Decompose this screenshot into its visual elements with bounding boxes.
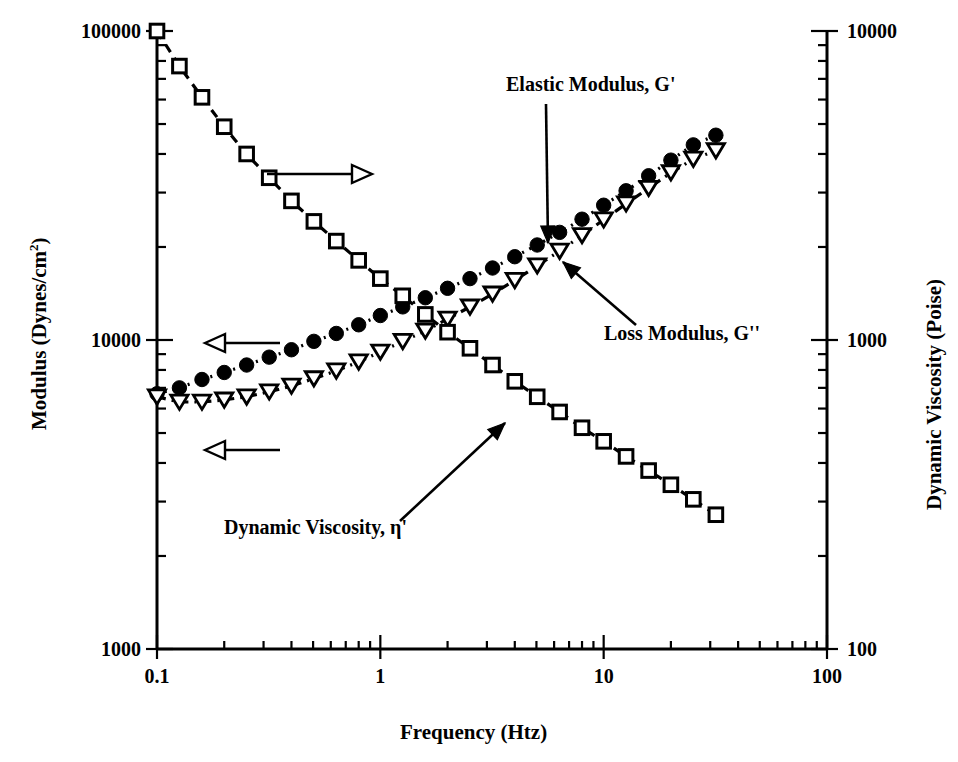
marker-open-triangle-down [417, 324, 434, 338]
annotation-dynamic-viscosity: Dynamic Viscosity, η' [224, 516, 407, 539]
y-axis-left-title: Modulus (Dynes/cm2) [26, 237, 51, 430]
arrow-to-loss-modulus [563, 262, 636, 325]
marker-filled-circle [195, 372, 209, 386]
marker-filled-circle [575, 212, 589, 226]
x-axis-title: Frequency (Htz) [400, 720, 547, 744]
arrow-shaft [546, 104, 548, 243]
marker-filled-circle [485, 261, 499, 275]
arrow-to-elastic-modulus [541, 104, 555, 243]
marker-filled-circle [239, 358, 253, 372]
marker-open-square [486, 358, 500, 372]
series-1 [150, 128, 723, 401]
x-tick-label: 100 [812, 665, 842, 687]
y-right-tick-label: 10000 [847, 20, 897, 42]
marker-filled-circle [307, 334, 321, 348]
marker-open-square [575, 421, 589, 435]
marker-filled-circle [217, 365, 231, 379]
marker-filled-circle [351, 318, 365, 332]
marker-open-square [352, 254, 366, 268]
marker-open-triangle-down [372, 345, 389, 359]
marker-open-square [173, 59, 187, 73]
arrow-to-dynamic-viscosity [400, 423, 505, 521]
marker-open-triangle-down [662, 166, 679, 180]
data-series-layer [148, 24, 724, 521]
tick-labels-group: 0.1110100100010000100000100100010000 [81, 20, 897, 687]
marker-open-square [307, 215, 321, 229]
arrow-head-hollow [205, 334, 225, 352]
marker-open-square [329, 234, 343, 248]
y-axis-left-title-main: Modulus (Dynes/cm [27, 250, 51, 430]
marker-filled-circle [262, 350, 276, 364]
y-left-tick-label: 100000 [81, 20, 141, 42]
marker-open-square [530, 390, 544, 404]
marker-open-square [687, 493, 701, 507]
x-tick-label: 0.1 [145, 665, 170, 687]
marker-filled-circle [596, 198, 610, 212]
marker-filled-circle [284, 343, 298, 357]
figure-container: 0.1110100100010000100000100100010000 Ela… [0, 0, 958, 762]
marker-open-square [195, 91, 209, 105]
marker-filled-circle [686, 138, 700, 152]
y-left-tick-label: 1000 [101, 638, 141, 660]
marker-open-square [419, 308, 433, 322]
marker-open-square [374, 272, 388, 286]
annotation-loss-modulus: Loss Modulus, G'' [604, 322, 760, 344]
rheology-chart: 0.1110100100010000100000100100010000 Ela… [0, 0, 958, 762]
y-right-tick-label: 100 [847, 638, 877, 660]
marker-open-square [150, 24, 164, 38]
marker-open-triangle-down [707, 144, 724, 158]
marker-open-triangle-down [685, 152, 702, 166]
marker-open-square [240, 147, 254, 161]
marker-open-triangle-down [573, 229, 590, 243]
y-axis-right-title: Dynamic Viscosity (Poise) [922, 279, 946, 510]
marker-filled-circle [440, 281, 454, 295]
marker-open-triangle-down [328, 364, 345, 378]
marker-open-square [642, 464, 656, 478]
marker-open-square [664, 478, 678, 492]
marker-open-square [508, 375, 522, 389]
marker-filled-circle [530, 238, 544, 252]
arrow-head-hollow [205, 441, 225, 459]
arrow-pointing-left-axis-upper [205, 334, 280, 352]
marker-open-square [619, 450, 633, 464]
series-line [157, 135, 716, 394]
x-tick-label: 1 [375, 665, 385, 687]
marker-open-triangle-down [394, 334, 411, 348]
y-left-tick-label: 10000 [91, 329, 141, 351]
marker-open-triangle-down [529, 259, 546, 273]
arrow-pointing-left-axis-lower [205, 441, 280, 459]
marker-open-triangle-down [350, 355, 367, 369]
marker-open-square [441, 325, 455, 339]
marker-open-square [217, 120, 231, 134]
marker-open-triangle-down [640, 181, 657, 195]
marker-open-triangle-down [461, 300, 478, 314]
marker-open-square [285, 194, 299, 208]
arrow-pointing-right-axis [267, 165, 372, 183]
arrow-shaft [400, 423, 505, 521]
marker-filled-circle [172, 381, 186, 395]
series-3 [150, 24, 722, 521]
marker-filled-circle [329, 326, 343, 340]
tick-marks-group [146, 31, 838, 659]
marker-filled-circle [373, 308, 387, 322]
marker-open-square [597, 435, 611, 449]
y-right-tick-label: 1000 [847, 329, 887, 351]
marker-filled-circle [418, 291, 432, 305]
marker-open-square [463, 342, 477, 356]
arrow-head-hollow [352, 165, 372, 183]
series-line [157, 31, 716, 515]
marker-filled-circle [709, 128, 723, 142]
marker-filled-circle [508, 250, 522, 264]
marker-open-triangle-down [305, 372, 322, 386]
marker-filled-circle [463, 271, 477, 285]
annotation-elastic-modulus: Elastic Modulus, G' [506, 73, 675, 95]
marker-open-square [396, 289, 410, 303]
marker-open-square [553, 405, 567, 419]
marker-open-square [709, 508, 723, 522]
y-axis-left-title-end: ) [27, 237, 51, 244]
x-tick-label: 10 [594, 665, 614, 687]
